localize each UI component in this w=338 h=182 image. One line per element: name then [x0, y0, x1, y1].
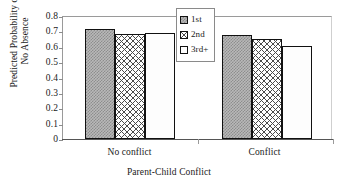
bar-chart: Predicted Probability of No Absence 0.80… — [0, 0, 338, 182]
y-axis-tick-label: 0.1 — [18, 118, 58, 130]
y-axis-tick-label: 0.2 — [18, 102, 58, 114]
legend-item-2nd: 2nd — [180, 27, 212, 42]
bar — [145, 33, 175, 139]
y-axis-tick-mark — [59, 125, 63, 126]
legend: 1st 2nd 3rd+ — [176, 8, 215, 62]
y-axis-tick-mark — [59, 140, 63, 141]
legend-label-3rd-plus: 3rd+ — [191, 45, 208, 54]
bar — [222, 35, 252, 139]
y-axis-tick-label: 0 — [18, 133, 58, 145]
bar — [115, 34, 145, 139]
legend-item-3rd-plus: 3rd+ — [180, 42, 212, 57]
y-axis-tick-mark — [59, 109, 63, 110]
y-axis-tick-mark — [59, 94, 63, 95]
bar — [252, 39, 282, 139]
x-axis-category-label: Conflict — [197, 147, 332, 157]
y-axis-tick-mark — [59, 63, 63, 64]
x-axis-category-label: No conflict — [62, 147, 197, 157]
y-axis-tick-label: 0.7 — [18, 25, 58, 37]
x-axis-tick-mark — [333, 139, 334, 144]
legend-item-1st: 1st — [180, 12, 212, 27]
y-axis-tick-mark — [59, 79, 63, 80]
y-axis-tick-mark — [59, 32, 63, 33]
y-axis-tick-label: 0.8 — [18, 10, 58, 22]
bar — [282, 46, 312, 139]
y-axis-tick-label: 0.5 — [18, 56, 58, 68]
legend-swatch-2nd-icon — [180, 31, 188, 39]
y-axis-tick-mark — [59, 48, 63, 49]
x-axis-tick-mark — [198, 139, 199, 144]
y-axis-tick-label: 0.3 — [18, 87, 58, 99]
y-axis-tick-label: 0.6 — [18, 41, 58, 53]
legend-swatch-3rd-plus-icon — [180, 46, 188, 54]
legend-label-2nd: 2nd — [191, 30, 205, 39]
bar — [85, 29, 115, 139]
y-axis-tick-labels: 0.80.70.60.50.40.30.20.10 — [18, 0, 58, 182]
legend-label-1st: 1st — [191, 15, 202, 24]
y-axis-tick-mark — [59, 17, 63, 18]
legend-swatch-1st-icon — [180, 16, 188, 24]
y-axis-tick-label: 0.4 — [18, 72, 58, 84]
x-axis-title: Parent-Child Conflict — [0, 167, 338, 177]
